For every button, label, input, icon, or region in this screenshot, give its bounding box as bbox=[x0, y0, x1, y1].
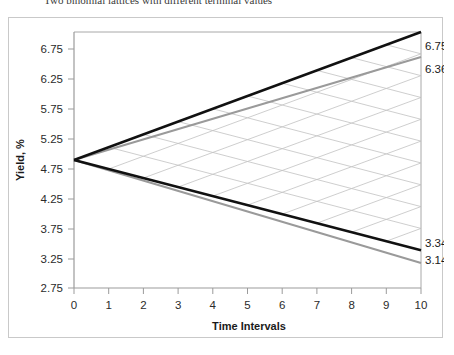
x-axis-title: Time Intervals bbox=[212, 320, 286, 332]
x-tick-label: 5 bbox=[244, 299, 250, 311]
y-tick-label: 4.75 bbox=[41, 163, 63, 175]
annotation-lower-black: 3.34 bbox=[425, 237, 444, 249]
x-tick-label: 1 bbox=[105, 299, 111, 311]
annotation-lower-gray: 3.14 bbox=[425, 254, 444, 266]
x-axis-tick-labels: 0 1 2 3 4 5 6 7 8 9 10 bbox=[71, 299, 428, 311]
chart-frame: 6.75 6.25 5.75 5.25 4.75 4.25 3.75 3.25 … bbox=[8, 17, 443, 338]
y-axis-ticks bbox=[68, 49, 74, 288]
x-tick-label: 8 bbox=[348, 299, 354, 311]
value-annotations: 6.75 6.36 3.34 3.14 bbox=[425, 40, 444, 266]
x-tick-label: 3 bbox=[175, 299, 181, 311]
x-tick-label: 7 bbox=[314, 299, 320, 311]
x-tick-label: 4 bbox=[210, 299, 217, 311]
chart-canvas: 6.75 6.25 5.75 5.25 4.75 4.25 3.75 3.25 … bbox=[9, 18, 444, 339]
y-axis-title: Yield, % bbox=[14, 139, 26, 181]
figure-caption: Two binomial lattices with different ter… bbox=[44, 0, 444, 6]
x-tick-label: 0 bbox=[71, 299, 77, 311]
x-tick-label: 9 bbox=[383, 299, 389, 311]
x-tick-label: 10 bbox=[415, 299, 428, 311]
x-axis-ticks bbox=[74, 288, 421, 294]
annotation-upper-gray: 6.36 bbox=[425, 63, 444, 75]
y-tick-label: 6.75 bbox=[41, 43, 63, 55]
y-tick-label: 5.25 bbox=[41, 133, 63, 145]
x-tick-label: 2 bbox=[140, 299, 146, 311]
y-tick-label: 3.75 bbox=[41, 223, 63, 235]
y-tick-label: 3.25 bbox=[41, 253, 63, 265]
y-tick-label: 2.75 bbox=[41, 282, 63, 294]
y-tick-label: 4.25 bbox=[41, 193, 63, 205]
x-tick-label: 6 bbox=[279, 299, 285, 311]
y-tick-label: 6.25 bbox=[41, 73, 63, 85]
annotation-upper-black: 6.75 bbox=[425, 40, 444, 52]
y-tick-label: 5.75 bbox=[41, 103, 63, 115]
y-axis-tick-labels: 6.75 6.25 5.75 5.25 4.75 4.25 3.75 3.25 … bbox=[41, 43, 63, 294]
